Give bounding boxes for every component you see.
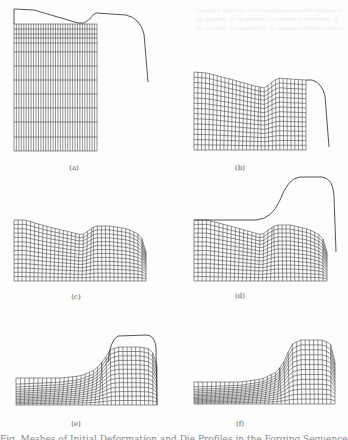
panel-label-d: (d) [235, 292, 245, 300]
panel-a [14, 9, 148, 151]
mesh-grid [194, 220, 327, 281]
mesh-grid [14, 220, 146, 281]
die-profile-curve [14, 9, 148, 82]
panel-label-a: (a) [69, 164, 79, 172]
panel-f [194, 340, 335, 404]
panel-label-f: (f) [236, 420, 244, 428]
panel-label-b: (b) [235, 164, 245, 172]
mesh-grid [194, 340, 335, 404]
panel-label-c: (c) [71, 293, 80, 301]
panel-b [194, 72, 329, 150]
panel-label-e: (e) [71, 420, 81, 428]
mesh-grid [14, 24, 97, 151]
panel-e [16, 335, 157, 405]
panel-c [14, 220, 146, 281]
mesh-grid [194, 72, 306, 150]
mesh-grid [16, 347, 157, 405]
panel-d [194, 177, 336, 281]
die-profile-curve [306, 80, 329, 147]
document-page: Cavitation Reactions in the forming proc… [0, 0, 348, 440]
mesh-figure [0, 0, 348, 440]
figure-caption: Fig. Meshes of Initial Deformation and D… [0, 432, 348, 440]
